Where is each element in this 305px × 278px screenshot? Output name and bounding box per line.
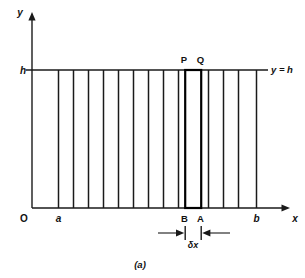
curve-equation-label: y = h <box>270 64 293 75</box>
x-axis-label: x <box>291 213 298 224</box>
point-label-p: P <box>181 54 188 65</box>
integration-strip-diagram: y h O a b x y = h P Q B A δx (a) <box>0 0 305 278</box>
origin-label: O <box>20 213 28 224</box>
highlighted-strip-rect <box>185 70 201 208</box>
x-axis-arrowhead <box>282 204 291 211</box>
y-axis-arrowhead <box>28 12 35 21</box>
figure-container: y h O a b x y = h P Q B A δx (a) <box>0 0 305 278</box>
point-label-q: Q <box>197 54 204 65</box>
delta-x-label: δx <box>188 240 199 250</box>
y-tick-label-h: h <box>20 65 26 76</box>
x-axis <box>32 204 290 211</box>
strip-divider-group <box>59 70 257 208</box>
point-label-b: B <box>181 213 188 224</box>
point-label-a: A <box>197 213 204 224</box>
y-axis-label: y <box>16 7 23 18</box>
delta-x-dimension <box>158 226 230 240</box>
x-tick-label-a: a <box>56 213 62 224</box>
dimension-arrowhead-left <box>176 230 184 237</box>
figure-caption: (a) <box>134 259 146 270</box>
x-tick-label-b: b <box>253 213 259 224</box>
y-axis <box>28 12 35 208</box>
